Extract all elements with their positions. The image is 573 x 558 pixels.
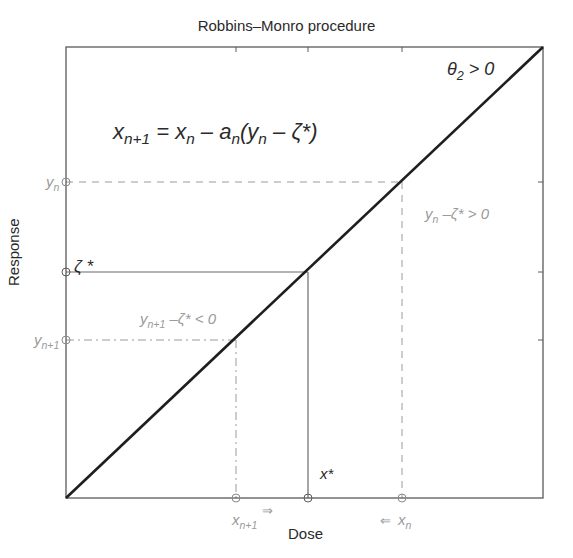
x-star-label: x* [320, 466, 333, 481]
slope-label: θ2 > 0 [447, 60, 494, 78]
figure-canvas [0, 0, 573, 558]
xn1-tick-label: xn+1 [232, 512, 257, 527]
y-axis-label: Response [6, 218, 21, 286]
xn-tick-label: xn [398, 512, 411, 527]
positive-residual-label: yn –ζ* > 0 [425, 206, 489, 221]
yn1-tick-label: yn+1 [34, 332, 59, 347]
right-arrow-icon: ⇒ [262, 504, 273, 517]
x-axis-label: Dose [288, 526, 323, 541]
chart-title: Robbins–Monro procedure [0, 18, 573, 33]
update-equation: xn+1 = xn – an(yn – ζ*) [113, 121, 317, 143]
yn-tick-label: yn [46, 174, 59, 189]
negative-residual-label: yn+1 –ζ* < 0 [140, 311, 216, 326]
zeta-tick-label: ζ * [74, 258, 93, 275]
left-arrow-icon: ⇐ [380, 514, 391, 527]
